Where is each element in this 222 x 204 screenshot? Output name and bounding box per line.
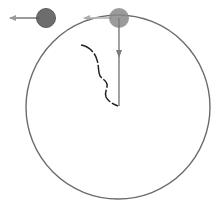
- trajectory-curve: [81, 45, 118, 106]
- left-ball: [37, 9, 56, 28]
- circular-path: [26, 15, 210, 199]
- radius-arrowhead-icon: [116, 50, 122, 58]
- diagram-canvas: Circular motion diagram: [0, 0, 222, 204]
